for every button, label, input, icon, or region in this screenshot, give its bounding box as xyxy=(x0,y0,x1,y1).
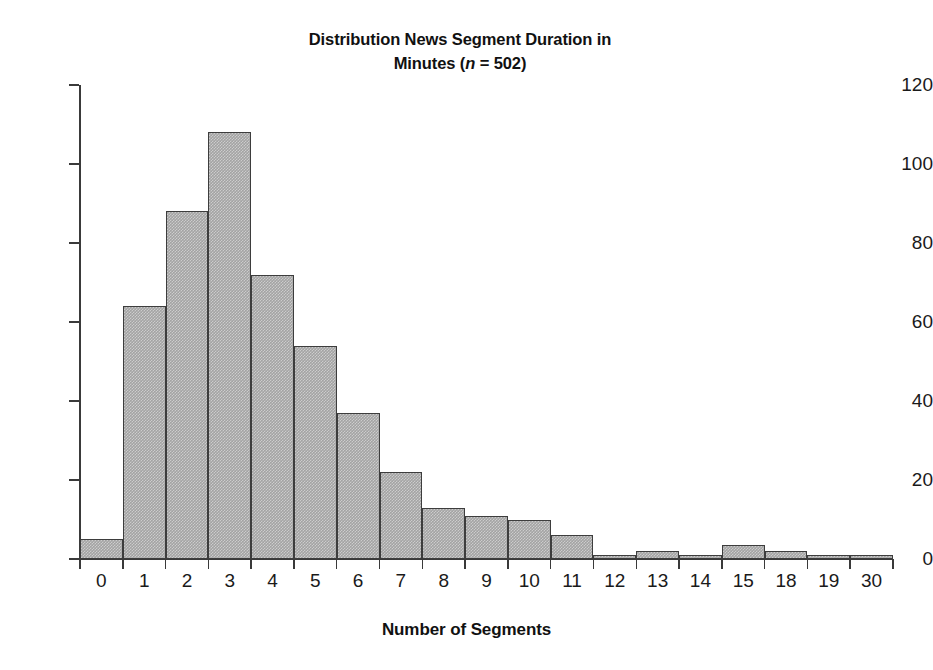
x-axis-tick xyxy=(550,559,552,569)
x-axis-tick-label: 9 xyxy=(481,570,492,592)
x-axis-tick xyxy=(165,559,167,569)
x-axis-tick xyxy=(636,559,638,569)
histogram-bar xyxy=(636,551,679,559)
histogram-bar xyxy=(551,535,594,559)
chart-title-sample-symbol: n xyxy=(465,54,475,72)
y-axis-tick xyxy=(69,558,79,560)
histogram-bar xyxy=(807,555,850,559)
histogram-bar xyxy=(80,539,123,559)
chart-title: Distribution News Segment Duration in Mi… xyxy=(170,28,750,76)
y-axis-tick xyxy=(69,321,79,323)
histogram-bar xyxy=(679,555,722,559)
x-axis-tick xyxy=(721,559,723,569)
histogram-bar xyxy=(508,520,551,560)
x-axis-tick-label: 13 xyxy=(647,570,668,592)
chart-title-line2-prefix: Minutes ( xyxy=(394,54,466,72)
histogram-bar xyxy=(337,413,380,559)
y-axis-tick xyxy=(69,400,79,402)
histogram-bar xyxy=(593,555,636,559)
x-axis-tick xyxy=(464,559,466,569)
y-axis-tick xyxy=(69,242,79,244)
x-axis-tick-label: 1 xyxy=(139,570,150,592)
plot-area xyxy=(80,85,893,559)
y-axis-tick xyxy=(69,163,79,165)
histogram-bar xyxy=(422,508,465,559)
x-axis-tick xyxy=(208,559,210,569)
x-axis-tick-label: 3 xyxy=(224,570,235,592)
histogram-bar xyxy=(294,346,337,559)
x-axis-tick-label: 0 xyxy=(96,570,107,592)
x-axis-tick xyxy=(422,559,424,569)
x-axis-tick xyxy=(593,559,595,569)
y-axis-tick xyxy=(69,84,79,86)
x-axis-tick-label: 10 xyxy=(519,570,540,592)
histogram-bar xyxy=(166,211,209,559)
x-axis-tick xyxy=(807,559,809,569)
chart-title-line1: Distribution News Segment Duration in xyxy=(309,30,612,48)
histogram-bar xyxy=(123,306,166,559)
x-axis-tick xyxy=(764,559,766,569)
x-axis-title: Number of Segments xyxy=(0,620,933,640)
x-axis-tick-label: 11 xyxy=(562,570,582,592)
histogram-bar xyxy=(208,132,251,559)
x-axis-tick-label: 6 xyxy=(353,570,364,592)
histogram-bar xyxy=(251,275,294,559)
x-axis-tick-label: 7 xyxy=(396,570,407,592)
x-axis-tick xyxy=(507,559,509,569)
x-axis-tick xyxy=(849,559,851,569)
x-axis-tick-label: 2 xyxy=(182,570,193,592)
x-axis-tick xyxy=(892,559,894,569)
x-axis-tick xyxy=(79,559,81,569)
histogram-bar xyxy=(765,551,808,559)
x-axis-tick-label: 18 xyxy=(775,570,796,592)
x-axis-tick xyxy=(250,559,252,569)
histogram-figure: Distribution News Segment Duration in Mi… xyxy=(0,0,933,670)
x-axis-tick xyxy=(293,559,295,569)
x-axis-tick xyxy=(379,559,381,569)
x-axis-tick xyxy=(336,559,338,569)
x-axis-tick-label: 14 xyxy=(690,570,711,592)
histogram-bar xyxy=(380,472,423,559)
x-axis-tick xyxy=(678,559,680,569)
x-axis-tick-label: 5 xyxy=(310,570,321,592)
x-axis-tick-label: 15 xyxy=(733,570,754,592)
x-axis-tick-label: 19 xyxy=(818,570,839,592)
histogram-bar xyxy=(850,555,893,559)
x-axis-tick-label: 4 xyxy=(267,570,278,592)
histogram-bar xyxy=(465,516,508,559)
x-axis-tick-label: 8 xyxy=(438,570,449,592)
chart-title-line2-suffix: = 502) xyxy=(475,54,526,72)
x-axis-tick xyxy=(122,559,124,569)
histogram-bar xyxy=(722,545,765,559)
x-axis-tick-label: 12 xyxy=(604,570,625,592)
y-axis-tick xyxy=(69,479,79,481)
x-axis-tick-label: 30 xyxy=(861,570,882,592)
